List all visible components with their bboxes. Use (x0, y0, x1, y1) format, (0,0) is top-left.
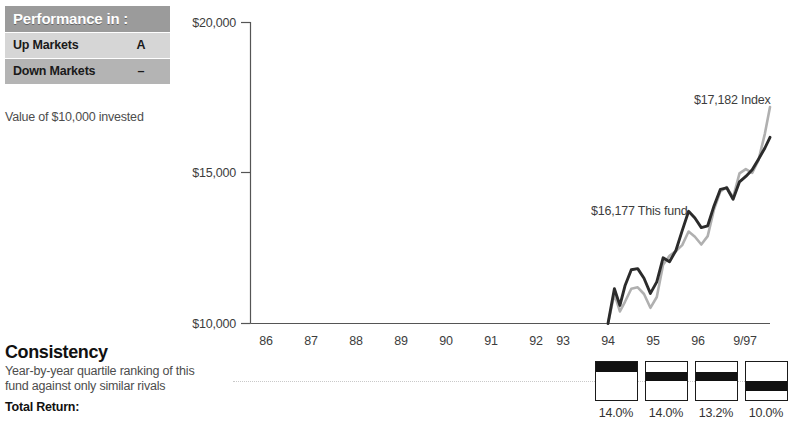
x-tick-3: 89 (394, 334, 408, 348)
total-return-label: Total Return: (5, 400, 255, 414)
index-value-annotation: $17,182 Index (694, 93, 772, 107)
quartile-fill-95 (646, 372, 687, 382)
quartile-median-line (233, 381, 773, 383)
growth-of-10k-chart: $20,000 $15,000 $10,000 86 87 88 89 90 9… (0, 0, 772, 360)
quartile-pct-95: 14.0% (641, 406, 691, 420)
consistency-description: Year-by-year quartile ranking of this fu… (5, 364, 220, 393)
y-axis-tick-labels: $20,000 $15,000 $10,000 (192, 16, 236, 331)
y-tick-15000: $15,000 (192, 166, 236, 180)
x-tick-8: 94 (601, 334, 615, 348)
consistency-block: Consistency Year-by-year quartile rankin… (5, 342, 255, 414)
x-tick-5: 91 (484, 334, 498, 348)
x-tick-1: 87 (304, 334, 318, 348)
quartile-box-94[interactable] (595, 361, 638, 401)
quartile-pct-997: 10.0% (741, 406, 791, 420)
x-tick-11: 9/97 (733, 334, 757, 348)
x-tick-0: 86 (259, 334, 273, 348)
chart-canvas: $20,000 $15,000 $10,000 86 87 88 89 90 9… (0, 0, 772, 360)
y-tick-10000: $10,000 (192, 317, 236, 331)
x-tick-10: 96 (691, 334, 705, 348)
quartile-fill-94 (596, 362, 637, 372)
x-tick-2: 88 (349, 334, 363, 348)
y-tick-20000: $20,000 (192, 16, 236, 30)
quartile-pct-96: 13.2% (691, 406, 741, 420)
quartile-fill-96 (696, 372, 737, 382)
quartile-box-997[interactable] (745, 361, 788, 401)
quartile-box-95[interactable] (645, 361, 688, 401)
quartile-box-96[interactable] (695, 361, 738, 401)
x-tick-6: 92 (529, 334, 543, 348)
x-tick-9: 95 (646, 334, 660, 348)
x-tick-4: 90 (439, 334, 453, 348)
chart-axes (241, 22, 770, 324)
consistency-heading: Consistency (5, 342, 255, 362)
quartile-pct-94: 14.0% (591, 406, 641, 420)
x-tick-7: 93 (556, 334, 570, 348)
quartile-fill-997 (746, 381, 787, 391)
fund-value-annotation: $16,177 This fund (591, 204, 688, 218)
x-axis-tick-labels: 86 87 88 89 90 91 92 93 94 95 96 9/97 (259, 334, 757, 348)
